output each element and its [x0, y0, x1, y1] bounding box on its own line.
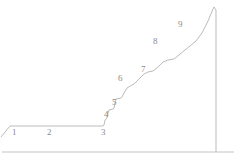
segment-label-9: 9	[178, 20, 183, 29]
segment-label-2: 2	[47, 128, 52, 137]
segment-label-1: 1	[12, 128, 17, 137]
segment-label-8: 8	[153, 37, 158, 46]
segment-label-3: 3	[101, 128, 106, 137]
segment-label-4: 4	[104, 110, 109, 119]
terrain-profile-polyline	[1, 7, 216, 152]
segment-label-5: 5	[112, 98, 117, 107]
segment-label-7: 7	[141, 65, 146, 74]
profile-diagram-canvas: 123456789	[0, 0, 236, 160]
segment-label-6: 6	[118, 74, 123, 83]
